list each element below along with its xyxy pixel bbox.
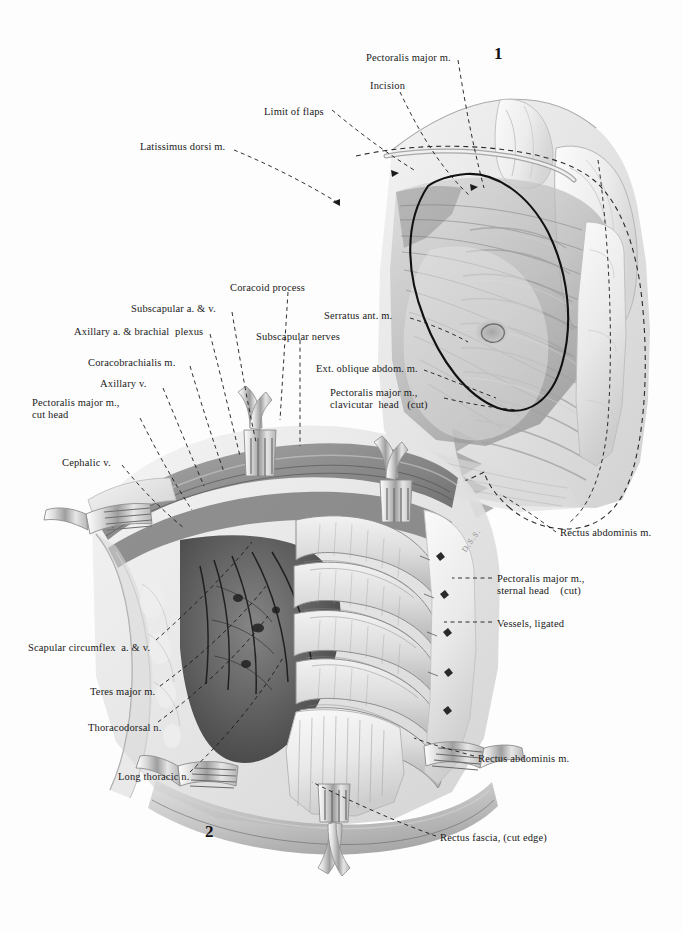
label-teres-major-m: Teres major m. xyxy=(90,686,155,698)
label-vessels-ligated: Vessels, ligated xyxy=(497,618,564,630)
label-thoracodorsal-n: Thoracodorsal n. xyxy=(88,722,162,734)
label-subscapular-nerves: Subscapular nerves xyxy=(256,331,340,343)
label-coracobrachialis-m: Coracobrachialis m. xyxy=(88,357,175,369)
label-rectus-fascia-cut-edge: Rectus fascia, (cut edge) xyxy=(440,832,547,844)
label-subscapular-a-v: Subscapular a. & v. xyxy=(131,303,216,315)
label-incision: Incision xyxy=(370,80,405,92)
label-latissimus-dorsi-m: Latissimus dorsi m. xyxy=(140,141,225,153)
label-pectoralis-major-sternal-head: Pectoralis major m., sternal head (cut) xyxy=(497,573,585,597)
anatomical-plate: Pectoralis major m. Incision Limit of fl… xyxy=(0,0,683,931)
leader-latissimus-dorsi xyxy=(234,150,340,204)
label-limit-of-flaps: Limit of flaps xyxy=(264,106,324,118)
label-serratus-ant-m: Serratus ant. m. xyxy=(324,310,392,322)
label-rectus-abdominis-m-upper: Rectus abdominis m. xyxy=(560,527,651,539)
label-pectoralis-major-m: Pectoralis major m. xyxy=(366,52,451,64)
figure-number-1: 1 xyxy=(494,44,503,64)
label-coracoid-process: Coracoid process xyxy=(230,282,305,294)
leader-arrowheads-fig1 xyxy=(332,198,341,206)
label-rectus-abdominis-m-lower: Rectus abdominis m. xyxy=(478,753,569,765)
label-cephalic-v: Cephalic v. xyxy=(62,457,111,469)
label-axillary-v: Axillary v. xyxy=(100,378,146,390)
figure-number-2: 2 xyxy=(205,822,214,842)
leader-coracoid-process xyxy=(280,292,288,420)
label-ext-oblique-abdom-m: Ext. oblique abdom. m. xyxy=(316,363,418,375)
label-scapular-circumflex-a-v: Scapular circumflex a. & v. xyxy=(28,642,150,654)
label-pectoralis-major-cut-head: Pectoralis major m., cut head xyxy=(32,397,120,421)
label-long-thoracic-n: Long thoracic n. xyxy=(118,771,190,783)
label-axillary-a-brachial-plexus: Axillary a. & brachial plexus xyxy=(74,326,203,338)
label-pectoralis-major-clavicular-head: Pectoralis major m., clavicutar head (cu… xyxy=(330,387,428,411)
